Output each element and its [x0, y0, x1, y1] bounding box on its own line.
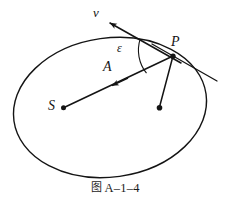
- orbit-ellipse: [4, 25, 215, 190]
- angle-epsilon-label: ε: [117, 42, 122, 54]
- focus-s-label: S: [48, 99, 55, 113]
- radius-vector-arrow: [112, 78, 128, 86]
- point-p-dot: [170, 54, 175, 59]
- point-a-label: A: [103, 60, 112, 74]
- orbit-diagram: [0, 0, 231, 197]
- figure-caption: 图A–1–4: [0, 178, 231, 196]
- velocity-label: v: [93, 6, 99, 19]
- second-focus-dot: [157, 105, 163, 111]
- focus-chord: [160, 56, 174, 107]
- figure-caption-prefix: 图: [91, 181, 104, 194]
- point-p-label: P: [171, 35, 180, 49]
- figure-container: v P ε A S 图A–1–4: [0, 0, 231, 197]
- focus-s-dot: [61, 105, 66, 110]
- epsilon-angle-arc: [138, 39, 146, 73]
- figure-caption-number: A–1–4: [104, 181, 140, 195]
- tangent-line: [152, 44, 217, 81]
